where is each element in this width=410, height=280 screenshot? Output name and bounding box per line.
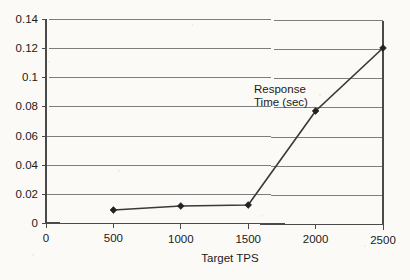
- annotation-line-1: Response: [254, 83, 306, 95]
- x-axis-tick-labels: 0 500 1000 1500 2000 2500: [43, 232, 396, 246]
- y-tick-label: 0.12: [16, 42, 38, 54]
- y-axis-tick-labels: 0.14 0.12 0.1 0.08 0.06 0.04 0.02 0: [16, 13, 39, 229]
- series-annotation: Response Time (sec): [254, 83, 308, 108]
- y-tick-label: 0.02: [16, 188, 38, 200]
- response-time-line-chart: 0.14 0.12 0.1 0.08 0.06 0.04 0.02 0 0 50…: [0, 0, 410, 280]
- x-axis-spine: [46, 223, 383, 225]
- data-point-marker-1000: [177, 203, 184, 210]
- gridline-0.02: [46, 194, 383, 196]
- axis-spines: [46, 19, 383, 225]
- gridline-0.06: [46, 136, 383, 138]
- x-tick-label: 1500: [235, 233, 261, 245]
- gridline-0.10: [46, 77, 383, 79]
- data-point-marker-500: [110, 207, 117, 214]
- gridline-0.08: [46, 106, 383, 108]
- series-markers: [110, 45, 386, 214]
- x-tick-label: 1000: [168, 233, 194, 245]
- x-tick-label: 2000: [303, 233, 329, 245]
- y-tick-label: 0.14: [16, 13, 39, 25]
- y-tickmarks: [42, 19, 46, 223]
- chart-canvas: 0.14 0.12 0.1 0.08 0.06 0.04 0.02 0 0 50…: [0, 0, 410, 280]
- x-tick-label: 2500: [370, 234, 396, 246]
- x-axis-title: Target TPS: [201, 252, 259, 264]
- gridline-0.04: [46, 165, 383, 167]
- y-tick-label: 0.06: [16, 130, 38, 142]
- horizontal-gridlines: [46, 19, 383, 196]
- y-tick-label: 0.04: [16, 159, 39, 171]
- y-tick-label: 0: [32, 217, 38, 229]
- x-tick-label: 500: [104, 232, 123, 244]
- gridline-0.14: [46, 19, 383, 21]
- y-tick-label: 0.1: [22, 71, 38, 83]
- response-time-series-line: [113, 48, 383, 210]
- x-tick-label: 0: [43, 232, 49, 244]
- annotation-line-2: Time (sec): [254, 96, 308, 108]
- y-tick-label: 0.08: [16, 100, 38, 112]
- gridline-0.12: [46, 48, 383, 50]
